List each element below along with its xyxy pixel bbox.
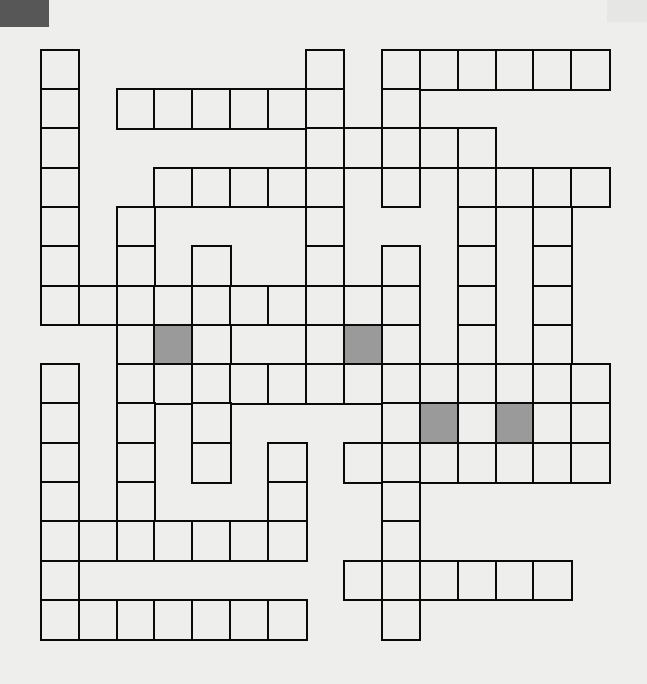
grid-cell[interactable] — [267, 285, 307, 327]
grid-cell[interactable] — [570, 402, 610, 444]
grid-cell[interactable] — [343, 442, 383, 484]
grid-cell[interactable] — [532, 49, 572, 91]
grid-cell[interactable] — [116, 363, 156, 405]
grid-cell[interactable] — [305, 206, 345, 248]
grid-cell[interactable] — [267, 599, 307, 641]
grid-cell[interactable] — [457, 285, 497, 327]
grid-cell[interactable] — [305, 167, 345, 209]
grid-cell[interactable] — [343, 363, 383, 405]
grid-cell[interactable] — [381, 127, 421, 169]
grid-cell[interactable] — [532, 363, 572, 405]
grid-cell[interactable] — [457, 442, 497, 484]
grid-cell[interactable] — [381, 167, 421, 209]
grid-cell[interactable] — [419, 127, 459, 169]
grid-cell[interactable] — [570, 363, 610, 405]
grid-cell[interactable] — [419, 560, 459, 602]
grid-cell[interactable] — [532, 206, 572, 248]
grid-cell[interactable] — [40, 49, 80, 91]
grid-cell[interactable] — [532, 442, 572, 484]
grid-cell[interactable] — [229, 520, 269, 562]
grid-cell[interactable] — [191, 520, 231, 562]
grid-cell[interactable] — [495, 442, 535, 484]
grid-cell[interactable] — [153, 520, 193, 562]
grid-cell[interactable] — [532, 402, 572, 444]
grid-cell[interactable] — [343, 285, 383, 327]
grid-cell[interactable] — [457, 167, 497, 209]
grid-cell[interactable] — [40, 442, 80, 484]
grid-cell[interactable] — [116, 402, 156, 444]
grid-cell[interactable] — [305, 245, 345, 287]
grid-cell[interactable] — [457, 560, 497, 602]
grid-cell[interactable] — [40, 127, 80, 169]
grid-cell[interactable] — [457, 324, 497, 366]
grid-cell[interactable] — [381, 88, 421, 130]
grid-cell[interactable] — [116, 442, 156, 484]
grid-cell[interactable] — [116, 599, 156, 641]
grid-cell[interactable] — [267, 363, 307, 405]
grid-cell[interactable] — [78, 599, 118, 641]
grid-cell[interactable] — [457, 402, 497, 444]
grid-cell[interactable] — [419, 363, 459, 405]
grid-cell[interactable] — [191, 599, 231, 641]
grid-cell[interactable] — [381, 442, 421, 484]
grid-cell[interactable] — [116, 324, 156, 366]
grid-cell[interactable] — [381, 599, 421, 641]
grid-cell[interactable] — [381, 245, 421, 287]
grid-cell[interactable] — [381, 324, 421, 366]
grid-cell[interactable] — [40, 481, 80, 523]
grid-cell[interactable] — [191, 167, 231, 209]
grid-cell[interactable] — [381, 481, 421, 523]
grid-cell[interactable] — [495, 363, 535, 405]
grid-cell[interactable] — [419, 49, 459, 91]
grid-cell[interactable] — [495, 167, 535, 209]
grid-cell[interactable] — [495, 49, 535, 91]
grid-cell[interactable] — [305, 285, 345, 327]
grid-cell[interactable] — [532, 245, 572, 287]
grid-cell[interactable] — [229, 363, 269, 405]
grid-cell[interactable] — [191, 402, 231, 444]
grid-cell[interactable] — [116, 481, 156, 523]
grid-cell[interactable] — [457, 206, 497, 248]
grid-cell[interactable] — [191, 245, 231, 287]
grid-cell[interactable] — [419, 442, 459, 484]
grid-cell[interactable] — [116, 520, 156, 562]
grid-cell[interactable] — [495, 560, 535, 602]
grid-cell[interactable] — [570, 167, 610, 209]
grid-cell[interactable] — [381, 363, 421, 405]
grid-cell[interactable] — [40, 245, 80, 287]
grid-cell[interactable] — [40, 206, 80, 248]
grid-cell[interactable] — [267, 481, 307, 523]
grid-cell[interactable] — [532, 324, 572, 366]
grid-cell[interactable] — [457, 127, 497, 169]
grid-cell[interactable] — [229, 167, 269, 209]
grid-cell[interactable] — [191, 442, 231, 484]
grid-cell[interactable] — [381, 520, 421, 562]
grid-cell[interactable] — [305, 88, 345, 130]
grid-cell[interactable] — [343, 560, 383, 602]
grid-cell[interactable] — [305, 127, 345, 169]
grid-cell[interactable] — [153, 88, 193, 130]
grid-cell[interactable] — [457, 363, 497, 405]
grid-cell[interactable] — [40, 363, 80, 405]
grid-cell[interactable] — [305, 324, 345, 366]
grid-cell[interactable] — [267, 442, 307, 484]
grid-cell[interactable] — [570, 49, 610, 91]
grid-cell[interactable] — [116, 285, 156, 327]
grid-cell[interactable] — [381, 560, 421, 602]
grid-cell[interactable] — [116, 206, 156, 248]
grid-cell[interactable] — [457, 245, 497, 287]
grid-cell[interactable] — [532, 560, 572, 602]
grid-cell[interactable] — [267, 88, 307, 130]
grid-cell[interactable] — [267, 167, 307, 209]
grid-cell[interactable] — [570, 442, 610, 484]
grid-cell[interactable] — [532, 167, 572, 209]
grid-cell[interactable] — [153, 599, 193, 641]
grid-cell[interactable] — [267, 520, 307, 562]
grid-cell[interactable] — [457, 49, 497, 91]
grid-cell[interactable] — [191, 324, 231, 366]
grid-cell[interactable] — [229, 599, 269, 641]
grid-cell[interactable] — [305, 363, 345, 405]
grid-cell[interactable] — [40, 402, 80, 444]
grid-cell[interactable] — [78, 285, 118, 327]
grid-cell[interactable] — [191, 88, 231, 130]
